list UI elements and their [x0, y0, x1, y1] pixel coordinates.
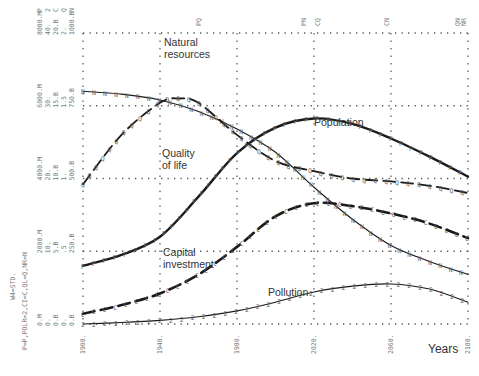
plot-symbol: P: [236, 149, 240, 157]
plot-symbol: N: [418, 255, 422, 263]
crossover-marker: CN: [383, 18, 391, 26]
y-axis-variable: N: [68, 8, 76, 12]
plot-symbol: Q: [319, 170, 323, 178]
y-tick-label: 500.B: [68, 161, 76, 181]
plot-symbol: N: [397, 247, 401, 255]
plot-symbol: 2: [277, 298, 281, 306]
y-tick-label: 10.B: [52, 165, 60, 181]
plot-symbol: C: [392, 211, 396, 219]
plot-symbol: Q: [107, 146, 111, 154]
plot-symbol: C: [305, 201, 309, 209]
plot-symbol: P: [379, 131, 383, 139]
plot-symbol: C: [124, 301, 128, 309]
plot-symbol: N: [136, 93, 140, 101]
plot-symbol: 2: [169, 317, 173, 325]
plot-symbol: N: [407, 251, 411, 259]
plot-symbol: Q: [351, 176, 355, 184]
plot-symbol: N: [378, 236, 382, 244]
plot-symbol: P: [200, 190, 204, 198]
plot-symbol: P: [263, 130, 267, 138]
plot-symbol: C: [359, 204, 363, 212]
plot-symbol: 2: [103, 320, 107, 328]
plot-symbol: N: [114, 91, 118, 99]
plot-symbol: C: [265, 219, 269, 227]
plot-symbol: C: [455, 231, 459, 239]
plot-symbol: 2: [363, 282, 367, 290]
plot-symbol: C: [222, 254, 226, 262]
plot-symbol: C: [176, 283, 180, 291]
plot-symbol: 2: [191, 314, 195, 322]
plot-symbol: C: [92, 308, 96, 316]
plot-symbol: P: [429, 154, 433, 162]
y-tick-label: 5.B: [52, 241, 60, 253]
plot-symbol: P: [389, 135, 393, 143]
plot-symbol: C: [444, 227, 448, 235]
plot-symbol: Q: [101, 155, 105, 163]
plot-symbol: C: [465, 235, 469, 243]
plot-symbol: C: [134, 298, 138, 306]
plot-symbol: Q: [122, 129, 126, 137]
plot-symbol: 2: [213, 312, 217, 320]
crossover-marker: CQ: [314, 18, 322, 26]
plot-symbol: C: [413, 216, 417, 224]
plot-symbol: Q: [428, 183, 432, 191]
plot-symbol: 2: [320, 287, 324, 295]
plot-symbol: C: [294, 204, 298, 212]
variable-legend: P=P,POLR=2,CI=C,QL=Q,NR=N: [21, 252, 29, 350]
plot-symbol: 2: [256, 303, 260, 311]
plot-symbol: P: [102, 257, 106, 265]
plot-symbol: C: [248, 233, 252, 241]
plot-symbol: N: [317, 189, 321, 197]
x-tick-label: 2100.: [464, 334, 472, 354]
plot-symbol: 2: [202, 313, 206, 321]
plot-symbol: 2: [429, 286, 433, 294]
plot-symbol: C: [316, 200, 320, 208]
plot-symbol: 2: [440, 290, 444, 298]
plot-symbol: P: [458, 169, 462, 177]
plot-symbol: C: [113, 304, 117, 312]
plot-symbol: 2: [92, 321, 96, 329]
plot-symbol: 2: [114, 320, 118, 328]
plot-symbol: Q: [266, 154, 270, 162]
plot-symbol: 2: [223, 310, 227, 318]
plot-symbol: P: [207, 182, 211, 190]
y-tick-label: 10.: [44, 242, 52, 254]
plot-symbol: N: [199, 110, 203, 118]
plot-symbol: C: [195, 272, 199, 280]
label-natural-resources-2: resources: [164, 48, 210, 60]
plot-symbol: C: [381, 209, 385, 217]
plot-symbol: Q: [308, 167, 312, 175]
plot-symbol: P: [113, 254, 117, 262]
plot-symbol: C: [327, 200, 331, 208]
plot-symbol: N: [268, 145, 272, 153]
x-tick-label: 2020.: [310, 334, 318, 354]
grid-lines: [83, 33, 468, 324]
plot-symbol: 2: [385, 281, 389, 289]
plot-symbol: N: [301, 174, 305, 182]
y-tick-label: 0.M: [36, 314, 44, 326]
y-tick-label: 0.B: [52, 314, 60, 326]
label-capital-investment-1: Capital: [163, 246, 196, 258]
label-quality-of-life-1: Quality: [162, 147, 195, 159]
plot-symbol: 2: [309, 290, 313, 298]
plot-symbol: N: [147, 95, 151, 103]
y-tick-label: 250.B: [68, 234, 76, 254]
plot-symbol: P: [123, 251, 127, 259]
plot-symbol: C: [256, 226, 260, 234]
y-tick-label: 30.: [44, 96, 52, 108]
y-tick-label: 0.: [44, 318, 52, 326]
plot-symbol: P: [273, 125, 277, 133]
plot-symbol: C: [240, 240, 244, 248]
plot-symbol: N: [428, 259, 432, 267]
plot-symbol: C: [402, 214, 406, 222]
plot-symbol: Q: [130, 122, 134, 130]
x-tick-label: 1980.: [233, 334, 241, 354]
plot-symbol: Q: [165, 96, 169, 104]
plot-symbol: C: [145, 295, 149, 303]
plot-symbol: P: [253, 136, 257, 144]
plot-symbol: Q: [147, 108, 151, 116]
plot-symbol: Q: [297, 165, 301, 173]
plot-symbol: Q: [395, 179, 399, 187]
plot-symbol: N: [179, 102, 183, 110]
y-axis-variable: 2: [44, 8, 52, 12]
